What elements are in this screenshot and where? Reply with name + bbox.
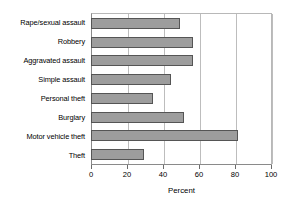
bar [91,130,238,141]
x-axis-tick [271,165,272,169]
x-axis-tick [235,165,236,169]
x-axis-tick [127,165,128,169]
plot-area [91,13,272,165]
bar [91,93,153,104]
gridline [272,14,273,164]
x-axis-tick-label: 80 [231,170,239,179]
x-axis-tick-label: 100 [265,170,278,179]
x-axis-tick-label: 20 [123,170,131,179]
bar [91,18,180,29]
bar-slot [92,127,271,146]
bar-slot [92,14,271,33]
x-axis-tick-label: 0 [89,170,93,179]
x-axis-ticks [91,165,272,169]
bar-slot [92,70,271,89]
x-axis-tick-labels: 020406080100 [91,170,272,182]
bar-slot [92,145,271,164]
x-axis-tick [163,165,164,169]
bar-series [92,14,271,164]
x-axis-tick-label: 60 [195,170,203,179]
category-label: Rape/sexual assault [0,13,88,32]
bar [91,37,193,48]
x-axis-tick [199,165,200,169]
bar [91,74,171,85]
x-axis-tick [91,165,92,169]
bar-slot [92,89,271,108]
category-axis: Rape/sexual assault Robbery Aggravated a… [0,13,88,165]
bar [91,55,193,66]
bar [91,112,184,123]
category-label: Robbery [0,32,88,51]
x-axis-tick-label: 40 [159,170,167,179]
category-label: Burglary [0,108,88,127]
bar-chart: Rape/sexual assault Robbery Aggravated a… [0,0,292,206]
bar-slot [92,33,271,52]
bar [91,149,144,160]
category-label: Personal theft [0,89,88,108]
category-label: Motor vehicle theft [0,127,88,146]
category-label: Theft [0,146,88,165]
category-label: Aggravated assault [0,51,88,70]
x-axis-title: Percent [91,186,272,195]
bar-slot [92,108,271,127]
bar-slot [92,52,271,71]
category-label: Simple assault [0,70,88,89]
